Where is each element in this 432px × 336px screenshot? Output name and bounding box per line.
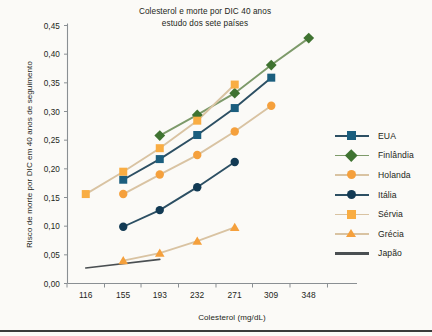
data-point-marker <box>231 104 239 112</box>
legend-swatch <box>333 168 371 182</box>
legend-item-grcia[interactable]: Grécia <box>333 224 429 244</box>
series-line <box>123 162 234 227</box>
data-point-marker <box>193 183 201 191</box>
data-point-marker <box>156 144 164 152</box>
legend-label: Finlândia <box>371 150 414 160</box>
legend-triangle-icon <box>346 229 356 237</box>
legend-item-japo[interactable]: Japão <box>333 244 429 264</box>
data-point-marker <box>156 155 164 163</box>
data-point-marker <box>119 176 127 184</box>
data-point-marker <box>193 151 201 159</box>
legend-circle-icon <box>347 190 356 199</box>
data-point-marker <box>154 130 165 141</box>
legend-swatch <box>333 227 371 241</box>
chart-legend: EUAFinlândiaHolandaItáliaSérviaGréciaJap… <box>333 126 429 263</box>
data-point-marker <box>231 81 239 89</box>
legend-item-finlndia[interactable]: Finlândia <box>333 146 429 166</box>
legend-swatch <box>333 207 371 221</box>
legend-label: Japão <box>371 248 402 258</box>
legend-label: Sérvia <box>371 209 403 219</box>
data-point-marker <box>231 127 239 135</box>
data-point-marker <box>230 223 240 231</box>
chart-figure: Colesterol e morte por DIC 40 anos estud… <box>0 0 432 336</box>
legend-item-eua[interactable]: EUA <box>333 126 429 146</box>
legend-line-icon <box>335 252 369 254</box>
data-point-marker <box>119 168 127 176</box>
legend-swatch <box>333 148 371 162</box>
data-point-marker <box>193 117 201 125</box>
series-line <box>123 78 271 180</box>
data-point-marker <box>82 190 90 198</box>
data-point-marker <box>267 102 275 110</box>
legend-label: EUA <box>371 131 396 141</box>
legend-label: Grécia <box>371 229 404 239</box>
data-point-marker <box>231 158 239 166</box>
legend-swatch <box>333 129 371 143</box>
legend-square-icon <box>347 210 356 219</box>
legend-square-icon <box>347 131 356 140</box>
data-point-marker <box>267 74 275 82</box>
legend-item-itlia[interactable]: Itália <box>333 185 429 205</box>
data-point-marker <box>193 131 201 139</box>
legend-item-srvia[interactable]: Sérvia <box>333 204 429 224</box>
series-line <box>123 227 234 260</box>
data-point-marker <box>156 206 164 214</box>
legend-label: Itália <box>371 190 397 200</box>
legend-item-holanda[interactable]: Holanda <box>333 165 429 185</box>
legend-swatch <box>333 246 371 260</box>
legend-circle-icon <box>347 170 356 179</box>
series-markers-eua <box>119 74 275 184</box>
series-eua <box>123 78 271 180</box>
data-point-marker <box>119 190 127 198</box>
series-grcia <box>123 227 234 260</box>
footer-divider <box>0 330 432 332</box>
data-point-marker <box>119 223 127 231</box>
data-point-marker <box>156 170 164 178</box>
legend-swatch <box>333 188 371 202</box>
legend-diamond-icon <box>345 149 357 161</box>
legend-label: Holanda <box>371 170 411 180</box>
series-itlia <box>123 162 234 227</box>
